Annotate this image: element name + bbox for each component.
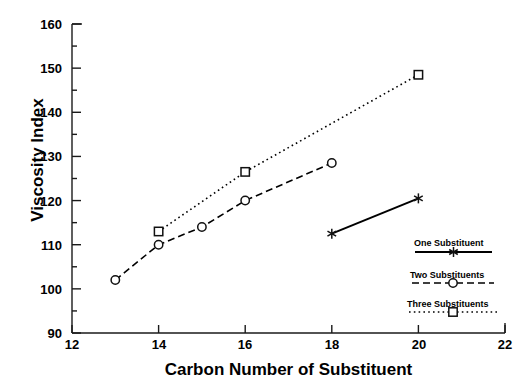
legend-key-2 [412, 279, 494, 287]
axes [72, 24, 505, 333]
chart-figure: Viscosity Index Carbon Number of Substit… [0, 0, 529, 392]
legend-key-1 [415, 247, 492, 257]
plot-area [0, 0, 529, 392]
series-one-substituent [327, 193, 422, 238]
legend-keys [409, 247, 497, 316]
legend-key-3 [409, 308, 497, 316]
series-three-substituents [154, 71, 422, 236]
data-series [111, 71, 423, 285]
series-two-substituents [111, 159, 336, 284]
